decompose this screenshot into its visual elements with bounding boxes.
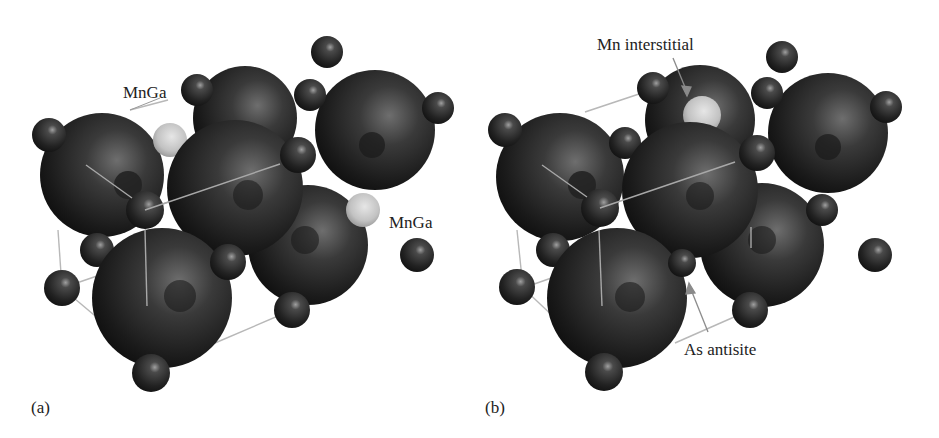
atom-large xyxy=(92,228,232,368)
atom-small xyxy=(32,118,66,152)
atom-small xyxy=(311,36,343,68)
atom-small xyxy=(732,292,768,328)
atom-small xyxy=(280,137,316,173)
atom-small xyxy=(44,270,80,306)
panel-tag-b: (b) xyxy=(485,399,505,416)
atom-small-inner xyxy=(615,282,645,312)
atom-small-inner xyxy=(815,134,841,160)
atom-large xyxy=(315,70,435,190)
atom-small xyxy=(751,77,783,109)
atom-small xyxy=(274,292,310,328)
arrow-head-icon xyxy=(686,283,695,294)
atom-small xyxy=(766,41,798,73)
panel-a-crystal-structure: MnGa MnGa (a) xyxy=(0,0,469,438)
atom-small-inner xyxy=(686,182,714,210)
atom-small xyxy=(858,238,892,272)
atom-small xyxy=(422,92,454,124)
atom-small xyxy=(585,353,623,391)
atom-small xyxy=(637,72,669,104)
atom-small xyxy=(870,91,902,123)
atom-small xyxy=(294,79,326,111)
atom-small xyxy=(488,113,522,147)
atom-small xyxy=(400,238,434,272)
atom-small-inner xyxy=(233,180,263,210)
label-as-antisite: As antisite xyxy=(684,341,756,358)
atom-small-inner xyxy=(164,280,196,312)
atom-small xyxy=(132,354,170,392)
panel-tag-a: (a) xyxy=(31,399,50,416)
atom-small xyxy=(739,135,775,171)
panel-b-crystal-structure: Mn interstitial As antisite (b) xyxy=(465,0,934,438)
label-mn-interstitial: Mn interstitial xyxy=(597,36,694,53)
defect-atom-mnga xyxy=(346,193,380,227)
atom-large xyxy=(768,73,888,193)
atom-small-inner xyxy=(748,226,776,254)
atom-small xyxy=(499,269,535,305)
atom-small-inner xyxy=(291,226,319,254)
atom-small xyxy=(210,244,246,280)
defect-atom-as-antisite xyxy=(668,249,696,277)
atom-small-inner xyxy=(359,132,385,158)
atom-small xyxy=(806,194,838,226)
label-mnga-upper: MnGa xyxy=(123,84,166,101)
crystal-lattice-b xyxy=(465,0,934,438)
label-mnga-right: MnGa xyxy=(389,214,432,231)
atom-small xyxy=(181,74,213,106)
